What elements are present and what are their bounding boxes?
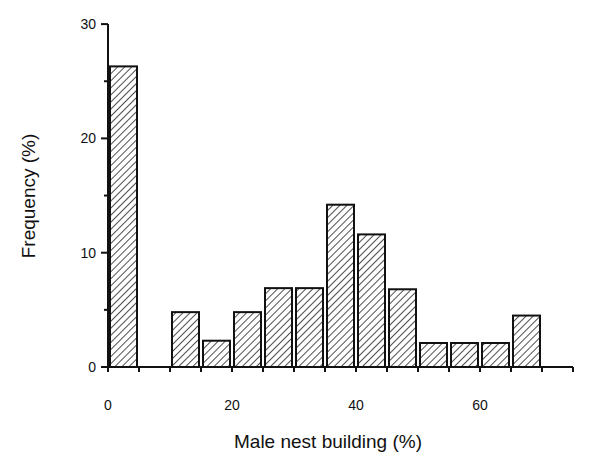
histogram-chart: 01020300204060 Male nest building (%) Fr… — [0, 0, 598, 467]
bars-group — [110, 66, 540, 367]
histogram-bar — [110, 66, 137, 367]
histogram-bar — [203, 341, 230, 367]
histogram-bar — [389, 289, 416, 367]
x-tick-label: 20 — [224, 397, 240, 413]
histogram-bar — [172, 312, 199, 367]
x-axis-label: Male nest building (%) — [234, 431, 422, 452]
y-tick-label: 20 — [80, 130, 96, 146]
x-tick-label: 60 — [472, 397, 488, 413]
histogram-bar — [513, 316, 540, 367]
histogram-bar — [451, 343, 478, 367]
y-tick-label: 10 — [80, 245, 96, 261]
histogram-bar — [420, 343, 447, 367]
histogram-bar — [234, 312, 261, 367]
y-tick-label: 30 — [80, 16, 96, 32]
histogram-bar — [265, 288, 292, 367]
histogram-bar — [296, 288, 323, 367]
histogram-bar — [327, 205, 354, 367]
x-tick-label: 40 — [348, 397, 364, 413]
histogram-bar — [358, 234, 385, 367]
x-tick-label: 0 — [104, 397, 112, 413]
y-axis-label: Frequency (%) — [18, 134, 39, 259]
y-tick-label: 0 — [88, 359, 96, 375]
histogram-bar — [482, 343, 509, 367]
